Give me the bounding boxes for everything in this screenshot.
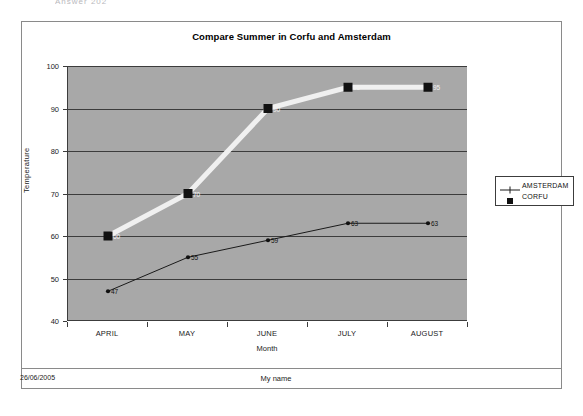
x-tick-mark [147, 322, 148, 327]
data-point-amsterdam-july[interactable] [346, 221, 350, 225]
point-value-label: 70 [193, 190, 200, 197]
y-tick-label: 90 [37, 104, 59, 113]
point-value-label: 59 [271, 237, 278, 244]
series-layer [68, 66, 468, 321]
chart-legend: AMSTERDAM CORFU [495, 176, 574, 206]
data-point-amsterdam-august[interactable] [426, 221, 430, 225]
plot-area [67, 66, 467, 321]
y-tick-mark [63, 194, 67, 195]
y-tick-mark [63, 66, 67, 67]
data-point-amsterdam-may[interactable] [186, 255, 190, 259]
x-tick-label: AUGUST [411, 329, 443, 338]
y-tick-mark [63, 236, 67, 237]
x-axis-label: Month [257, 344, 278, 353]
x-tick-mark [387, 322, 388, 327]
y-tick-mark [63, 151, 67, 152]
y-tick-label: 50 [37, 274, 59, 283]
y-tick-mark [63, 109, 67, 110]
chart-title: Compare Summer in Corfu and Amsterdam [22, 31, 561, 42]
footer-divider [21, 368, 562, 369]
x-tick-mark [307, 322, 308, 327]
point-value-label: 90 [273, 105, 280, 112]
legend-item-corfu[interactable]: CORFU [499, 191, 569, 202]
page-top-stub-text: Answer 202 [55, 0, 215, 6]
x-tick-mark [467, 322, 468, 327]
y-tick-label: 40 [37, 317, 59, 326]
data-point-corfu-april[interactable] [104, 232, 113, 241]
data-point-amsterdam-june[interactable] [266, 238, 270, 242]
data-point-corfu-may[interactable] [184, 189, 193, 198]
y-tick-label: 100 [37, 62, 59, 71]
footer-date: 26/06/2005 [20, 374, 55, 381]
legend-line-plus-icon [499, 181, 521, 191]
legend-square-icon [499, 192, 521, 202]
y-tick-label: 80 [37, 147, 59, 156]
data-point-amsterdam-april[interactable] [106, 289, 110, 293]
point-value-label: 63 [431, 220, 438, 227]
point-value-label: 47 [111, 288, 118, 295]
x-tick-label: MAY [179, 329, 195, 338]
data-point-corfu-july[interactable] [344, 83, 353, 92]
point-value-label: 95 [353, 84, 360, 91]
x-tick-mark [227, 322, 228, 327]
y-tick-label: 60 [37, 232, 59, 241]
point-value-label: 63 [351, 220, 358, 227]
y-tick-mark [63, 279, 67, 280]
x-tick-mark [67, 322, 68, 327]
legend-item-amsterdam[interactable]: AMSTERDAM [499, 180, 569, 191]
legend-label-amsterdam: AMSTERDAM [522, 182, 569, 189]
y-axis-label: Temperature [22, 148, 31, 193]
point-value-label: 95 [433, 84, 440, 91]
x-tick-label: JULY [338, 329, 357, 338]
legend-label-corfu: CORFU [522, 193, 548, 200]
data-point-corfu-june[interactable] [264, 104, 273, 113]
data-point-corfu-august[interactable] [424, 83, 433, 92]
footer-author: My name [261, 374, 292, 383]
point-value-label: 55 [191, 254, 198, 261]
series-line-amsterdam [108, 223, 428, 291]
x-tick-label: APRIL [96, 329, 119, 338]
x-tick-label: JUNE [257, 329, 277, 338]
y-tick-label: 70 [37, 189, 59, 198]
point-value-label: 60 [113, 233, 120, 240]
